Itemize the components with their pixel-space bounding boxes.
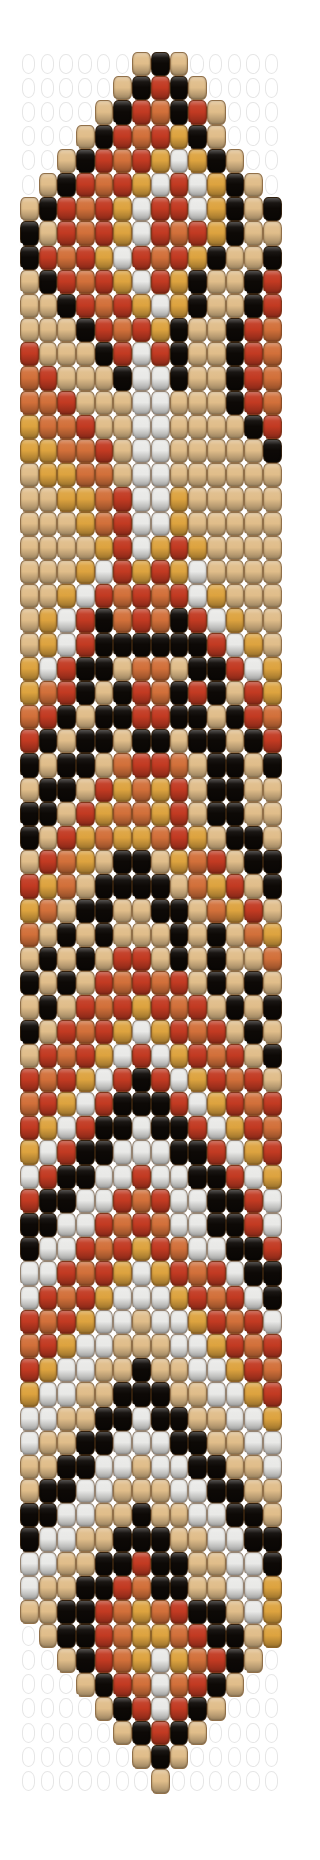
bead-cell-white[interactable]	[57, 1382, 76, 1406]
bead-cell-black[interactable]	[207, 947, 226, 971]
bead-cell-tan[interactable]	[39, 294, 58, 318]
bead-cell-white[interactable]	[76, 1189, 95, 1213]
bead-cell-black[interactable]	[226, 778, 245, 802]
bead-cell-red[interactable]	[207, 1020, 226, 1044]
bead-cell-red[interactable]	[57, 1068, 76, 1092]
bead-cell-tan[interactable]	[244, 995, 263, 1019]
bead-cell-red[interactable]	[95, 1648, 114, 1672]
bead-cell-black[interactable]	[207, 778, 226, 802]
bead-cell-tan[interactable]	[57, 318, 76, 342]
bead-cell-black[interactable]	[207, 802, 226, 826]
bead-cell-tan[interactable]	[20, 560, 39, 584]
bead-cell-red[interactable]	[95, 971, 114, 995]
bead-cell-tan[interactable]	[57, 1576, 76, 1600]
bead-cell-red[interactable]	[151, 753, 170, 777]
bead-cell-gold[interactable]	[226, 1116, 245, 1140]
bead-cell-empty[interactable]	[57, 1673, 76, 1697]
bead-cell-tan[interactable]	[20, 778, 39, 802]
bead-cell-empty[interactable]	[76, 1721, 95, 1745]
bead-cell-red[interactable]	[76, 1044, 95, 1068]
bead-cell-black[interactable]	[207, 246, 226, 270]
bead-cell-orange[interactable]	[263, 318, 282, 342]
bead-cell-white[interactable]	[113, 1165, 132, 1189]
bead-cell-orange[interactable]	[170, 1624, 189, 1648]
bead-cell-tan[interactable]	[263, 221, 282, 245]
bead-cell-tan[interactable]	[226, 1020, 245, 1044]
bead-cell-empty[interactable]	[20, 1745, 39, 1769]
bead-cell-black[interactable]	[263, 753, 282, 777]
bead-cell-tan[interactable]	[113, 1358, 132, 1382]
bead-cell-red[interactable]	[263, 1382, 282, 1406]
bead-cell-red[interactable]	[132, 1552, 151, 1576]
bead-cell-black[interactable]	[39, 1503, 58, 1527]
bead-cell-red[interactable]	[188, 1116, 207, 1140]
bead-cell-tan[interactable]	[57, 342, 76, 366]
bead-cell-orange[interactable]	[151, 100, 170, 124]
bead-cell-tan[interactable]	[39, 318, 58, 342]
bead-cell-white[interactable]	[57, 1527, 76, 1551]
bead-cell-gold[interactable]	[263, 1600, 282, 1624]
bead-cell-orange[interactable]	[132, 1576, 151, 1600]
bead-cell-orange[interactable]	[263, 342, 282, 366]
bead-cell-gold[interactable]	[57, 487, 76, 511]
bead-cell-tan[interactable]	[263, 802, 282, 826]
bead-cell-red[interactable]	[226, 1165, 245, 1189]
bead-cell-empty[interactable]	[39, 100, 58, 124]
bead-cell-gold[interactable]	[132, 1624, 151, 1648]
bead-cell-tan[interactable]	[263, 826, 282, 850]
bead-cell-empty[interactable]	[244, 125, 263, 149]
bead-cell-black[interactable]	[113, 1407, 132, 1431]
bead-cell-red[interactable]	[20, 1189, 39, 1213]
bead-cell-red[interactable]	[20, 1310, 39, 1334]
bead-cell-tan[interactable]	[207, 560, 226, 584]
bead-cell-black[interactable]	[76, 1140, 95, 1164]
bead-cell-black[interactable]	[188, 1431, 207, 1455]
bead-cell-black[interactable]	[39, 1189, 58, 1213]
bead-cell-empty[interactable]	[263, 1697, 282, 1721]
bead-cell-orange[interactable]	[263, 705, 282, 729]
bead-cell-gold[interactable]	[170, 512, 189, 536]
bead-cell-red[interactable]	[95, 1624, 114, 1648]
bead-cell-black[interactable]	[263, 197, 282, 221]
bead-cell-empty[interactable]	[76, 100, 95, 124]
bead-cell-tan[interactable]	[20, 633, 39, 657]
bead-cell-tan[interactable]	[226, 681, 245, 705]
bead-cell-white[interactable]	[170, 1310, 189, 1334]
bead-cell-orange[interactable]	[132, 1189, 151, 1213]
bead-cell-black[interactable]	[226, 221, 245, 245]
bead-cell-white[interactable]	[95, 1068, 114, 1092]
bead-cell-black[interactable]	[170, 1116, 189, 1140]
bead-cell-white[interactable]	[188, 1237, 207, 1261]
bead-cell-orange[interactable]	[57, 415, 76, 439]
bead-cell-orange[interactable]	[20, 1334, 39, 1358]
bead-cell-tan[interactable]	[151, 850, 170, 874]
bead-cell-white[interactable]	[39, 657, 58, 681]
bead-cell-black[interactable]	[113, 681, 132, 705]
bead-cell-empty[interactable]	[20, 125, 39, 149]
bead-cell-black[interactable]	[57, 294, 76, 318]
bead-cell-black[interactable]	[151, 1527, 170, 1551]
bead-cell-red[interactable]	[57, 221, 76, 245]
bead-cell-black[interactable]	[188, 1600, 207, 1624]
bead-cell-tan[interactable]	[226, 149, 245, 173]
bead-cell-black[interactable]	[39, 778, 58, 802]
bead-cell-black[interactable]	[132, 76, 151, 100]
bead-cell-black[interactable]	[132, 1358, 151, 1382]
bead-cell-orange[interactable]	[76, 270, 95, 294]
bead-cell-white[interactable]	[207, 1116, 226, 1140]
bead-cell-tan[interactable]	[132, 1310, 151, 1334]
bead-cell-red[interactable]	[76, 246, 95, 270]
bead-cell-black[interactable]	[226, 318, 245, 342]
bead-cell-black[interactable]	[39, 1213, 58, 1237]
bead-cell-orange[interactable]	[57, 874, 76, 898]
bead-cell-gold[interactable]	[244, 633, 263, 657]
bead-cell-black[interactable]	[244, 971, 263, 995]
bead-cell-tan[interactable]	[76, 874, 95, 898]
bead-cell-orange[interactable]	[39, 391, 58, 415]
bead-cell-black[interactable]	[132, 1092, 151, 1116]
bead-cell-tan[interactable]	[226, 415, 245, 439]
bead-cell-tan[interactable]	[188, 487, 207, 511]
bead-cell-black[interactable]	[76, 1624, 95, 1648]
bead-cell-empty[interactable]	[226, 1745, 245, 1769]
bead-cell-black[interactable]	[76, 1600, 95, 1624]
